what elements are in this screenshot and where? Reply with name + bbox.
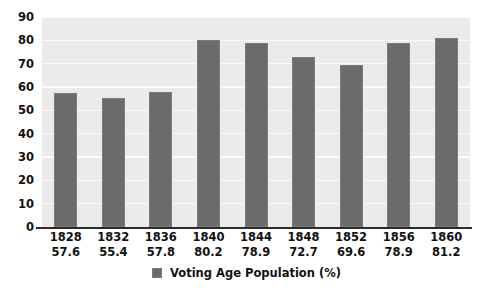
- bar: [387, 43, 410, 227]
- x-axis-label-group: 183657.8: [145, 230, 177, 260]
- x-axis-value-label: 78.9: [240, 245, 272, 260]
- x-axis-category-label: 1836: [145, 230, 177, 245]
- y-axis-tick: 10: [18, 197, 34, 211]
- x-axis-value-label: 80.2: [192, 245, 224, 260]
- bar: [292, 57, 315, 227]
- plot-area: [42, 17, 470, 227]
- x-axis-category-label: 1832: [97, 230, 129, 245]
- x-axis-category-label: 1852: [335, 230, 367, 245]
- y-axis-tick: 40: [18, 127, 34, 141]
- bar: [340, 65, 363, 227]
- x-axis-value-label: 55.4: [97, 245, 129, 260]
- bar: [435, 38, 458, 227]
- x-axis-value-label: 78.9: [383, 245, 415, 260]
- legend-swatch-icon: [152, 268, 162, 278]
- y-axis: 9080706050403020100: [0, 17, 38, 227]
- y-axis-tick: 90: [18, 10, 34, 24]
- y-axis-tick: 30: [18, 150, 34, 164]
- y-axis-tick: 80: [18, 33, 34, 47]
- x-axis-value-label: 57.8: [145, 245, 177, 260]
- x-axis-value-label: 81.2: [430, 245, 462, 260]
- bar: [54, 93, 77, 227]
- legend-label: Voting Age Population (%): [170, 266, 341, 280]
- x-axis-label-group: 182857.6: [50, 230, 82, 260]
- y-axis-tick: 20: [18, 173, 34, 187]
- x-axis-label-group: 184080.2: [192, 230, 224, 260]
- y-axis-tick: 70: [18, 57, 34, 71]
- bar: [102, 98, 125, 227]
- x-axis-category-label: 1848: [288, 230, 320, 245]
- x-axis-value-label: 72.7: [288, 245, 320, 260]
- bar: [245, 43, 268, 227]
- y-axis-tick: 50: [18, 103, 34, 117]
- x-axis-label-group: 183255.4: [97, 230, 129, 260]
- chart-legend: Voting Age Population (%): [0, 266, 493, 280]
- bar: [197, 40, 220, 227]
- bar: [149, 92, 172, 227]
- y-axis-tick: 60: [18, 80, 34, 94]
- x-axis-category-label: 1840: [192, 230, 224, 245]
- x-axis-label-group: 185678.9: [383, 230, 415, 260]
- y-axis-tick: 0: [26, 220, 34, 234]
- bar-chart: 9080706050403020100 182857.6183255.41836…: [0, 0, 493, 298]
- x-axis-label-group: 184872.7: [288, 230, 320, 260]
- x-axis-label-group: 185269.6: [335, 230, 367, 260]
- x-axis-category-label: 1860: [430, 230, 462, 245]
- x-axis-value-label: 69.6: [335, 245, 367, 260]
- x-axis-category-label: 1844: [240, 230, 272, 245]
- x-axis-label-group: 184478.9: [240, 230, 272, 260]
- x-axis-category-label: 1828: [50, 230, 82, 245]
- x-axis-label-group: 186081.2: [430, 230, 462, 260]
- x-axis-category-label: 1856: [383, 230, 415, 245]
- x-axis-labels: 182857.6183255.4183657.8184080.2184478.9…: [42, 230, 470, 262]
- x-axis-line: [36, 227, 472, 229]
- bars-layer: [42, 17, 470, 227]
- x-axis-value-label: 57.6: [50, 245, 82, 260]
